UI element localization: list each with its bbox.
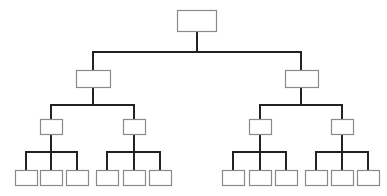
connector-lines xyxy=(26,31,368,170)
node-box-g3b xyxy=(250,171,272,186)
node-box-g2b xyxy=(124,171,146,186)
node-box-R1 xyxy=(286,71,319,88)
node-box-g1b xyxy=(41,171,63,186)
node-box-g2c xyxy=(150,171,172,186)
node-box-RR2 xyxy=(332,120,354,135)
node-box-root xyxy=(178,11,217,32)
node-box-LL2 xyxy=(41,120,63,135)
node-box-g4b xyxy=(332,171,354,186)
node-box-RL2 xyxy=(250,120,272,135)
org-chart-diagram xyxy=(0,0,387,196)
node-box-g1c xyxy=(67,171,89,186)
node-box-g1a xyxy=(16,171,38,186)
node-box-g3c xyxy=(276,171,298,186)
node-box-g4c xyxy=(358,171,380,186)
node-box-g4a xyxy=(306,171,328,186)
node-box-L1 xyxy=(77,71,111,88)
node-box-LR2 xyxy=(124,120,146,135)
node-box-g2a xyxy=(97,171,119,186)
node-box-g3a xyxy=(223,171,245,186)
